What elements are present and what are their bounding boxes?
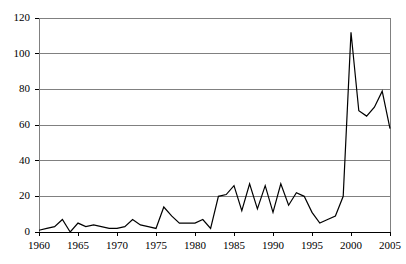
x-axis-tick-label: 1990	[253, 240, 293, 251]
x-axis-tick-label: 2005	[370, 240, 406, 251]
x-axis-tick-label: 1995	[292, 240, 332, 251]
x-axis-tick-label: 2000	[331, 240, 371, 251]
data-series-line	[39, 32, 390, 232]
x-axis-tick-label: 1970	[97, 240, 137, 251]
y-axis-tick-label: 80	[4, 83, 30, 94]
y-axis-tick-label: 0	[4, 226, 30, 237]
x-axis-tick-label: 1985	[214, 240, 254, 251]
y-axis-tick-label: 60	[4, 119, 30, 130]
y-axis-tick-label: 20	[4, 190, 30, 201]
x-axis-tick-label: 1975	[136, 240, 176, 251]
x-axis-tick-label: 1980	[175, 240, 215, 251]
x-axis-tick-label: 1965	[58, 240, 98, 251]
y-axis-tick-label: 100	[4, 48, 30, 59]
y-axis-tick-label: 120	[4, 12, 30, 23]
y-axis-tick-label: 40	[4, 155, 30, 166]
x-axis-tick-label: 1960	[19, 240, 59, 251]
